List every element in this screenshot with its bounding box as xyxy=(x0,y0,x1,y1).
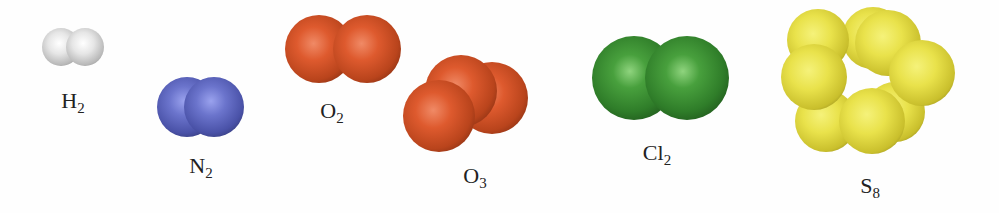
s-atom xyxy=(781,44,847,110)
s-atom xyxy=(839,88,905,154)
o3-label: O3 xyxy=(463,165,486,191)
o-atom xyxy=(403,80,475,152)
h2-label: H2 xyxy=(61,90,84,116)
s8-label: S8 xyxy=(860,175,880,201)
n-atom xyxy=(184,77,244,137)
molecule-figure: H2 N2 O2 O3 Cl2 S8 xyxy=(0,0,999,213)
cl2-label: Cl2 xyxy=(643,142,671,168)
s-atom xyxy=(889,40,955,106)
cl-atom xyxy=(645,36,729,120)
o2-label: O2 xyxy=(320,100,343,126)
h-atom xyxy=(66,28,104,66)
o-atom xyxy=(333,15,401,83)
n2-label: N2 xyxy=(189,155,212,181)
